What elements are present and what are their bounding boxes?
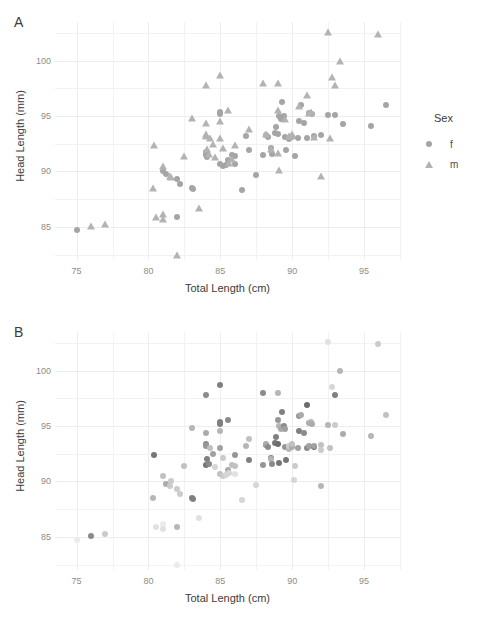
y-tick-label: 90 xyxy=(41,166,51,176)
data-point xyxy=(188,115,196,122)
data-point xyxy=(174,562,180,568)
panel-b-x-axis-title: Total Length (cm) xyxy=(55,592,400,604)
panel-a: A 859095100 7580859095 Total Length (cm)… xyxy=(0,0,503,310)
data-point xyxy=(281,116,289,123)
legend-row-m[interactable]: m xyxy=(418,154,500,174)
data-point xyxy=(318,483,324,489)
data-point xyxy=(318,132,324,138)
data-point xyxy=(295,103,303,110)
x-tick-label: 80 xyxy=(143,266,153,276)
x-tick-label: 90 xyxy=(287,576,297,586)
data-point xyxy=(262,130,270,137)
data-point xyxy=(328,74,336,81)
data-point xyxy=(232,463,238,469)
data-point xyxy=(173,251,181,258)
panel-a-plot-area xyxy=(55,22,400,260)
data-point xyxy=(309,421,315,427)
data-point xyxy=(340,121,346,127)
data-point xyxy=(217,428,223,434)
figure-container: A 859095100 7580859095 Total Length (cm)… xyxy=(0,0,503,620)
data-point xyxy=(337,368,343,374)
data-point xyxy=(243,443,249,449)
data-point xyxy=(260,152,266,158)
data-point xyxy=(216,135,224,142)
data-point xyxy=(149,185,157,192)
data-point xyxy=(150,141,158,148)
data-point xyxy=(260,390,266,396)
data-point xyxy=(243,133,249,139)
panel-b: B 859095100 7580859095 Total Length (cm)… xyxy=(0,310,503,620)
panel-b-y-axis-title: Head Length (mm) xyxy=(14,327,26,565)
data-point xyxy=(211,154,219,161)
data-point xyxy=(160,526,166,532)
data-point xyxy=(74,537,80,543)
x-tick-label: 85 xyxy=(215,266,225,276)
data-point xyxy=(180,152,188,159)
panel-a-x-axis-title: Total Length (cm) xyxy=(55,282,400,294)
data-point xyxy=(217,382,223,388)
data-point xyxy=(87,222,95,229)
data-point xyxy=(326,135,334,142)
data-point xyxy=(224,106,232,113)
legend-label-m: m xyxy=(440,159,458,170)
y-tick-label: 85 xyxy=(41,222,51,232)
data-point xyxy=(160,473,166,479)
data-point xyxy=(253,172,259,178)
data-point xyxy=(177,491,183,497)
panel-b-x-axis-ticks: 7580859095 xyxy=(55,576,400,588)
data-point xyxy=(303,92,311,99)
data-point xyxy=(232,471,238,477)
data-point xyxy=(368,433,374,439)
panel-a-legend: Sex f m xyxy=(418,112,500,174)
data-point xyxy=(311,443,317,449)
y-tick-label: 85 xyxy=(41,532,51,542)
data-point xyxy=(318,447,324,453)
data-point xyxy=(217,111,223,117)
data-point xyxy=(212,464,218,470)
data-point xyxy=(275,390,281,396)
data-point xyxy=(216,72,224,79)
y-tick-label: 90 xyxy=(41,476,51,486)
circle-marker-icon xyxy=(418,141,440,147)
data-point xyxy=(283,147,289,153)
data-point xyxy=(375,341,381,347)
data-point xyxy=(203,430,209,436)
data-point xyxy=(291,477,297,483)
data-point xyxy=(245,126,253,133)
data-point xyxy=(332,112,338,118)
data-point xyxy=(177,181,183,187)
x-tick-label: 75 xyxy=(72,266,82,276)
data-point xyxy=(159,216,167,223)
data-point xyxy=(327,445,333,451)
data-point xyxy=(336,57,344,64)
data-point xyxy=(279,99,285,105)
panel-a-points-layer xyxy=(55,22,400,260)
data-point xyxy=(265,444,271,450)
data-point xyxy=(292,153,298,159)
legend-row-f[interactable]: f xyxy=(418,134,500,154)
data-point xyxy=(190,186,196,192)
data-point xyxy=(74,227,80,233)
data-point xyxy=(279,409,285,415)
data-point xyxy=(273,434,279,440)
data-point xyxy=(301,430,307,436)
y-tick-label: 100 xyxy=(36,56,51,66)
y-tick-label: 100 xyxy=(36,366,51,376)
data-point xyxy=(151,452,157,458)
data-point xyxy=(203,392,209,398)
panel-b-points-layer xyxy=(55,332,400,570)
gridline-vertical xyxy=(400,22,401,260)
data-point xyxy=(275,167,283,174)
data-point xyxy=(102,531,108,537)
x-tick-label: 80 xyxy=(143,576,153,586)
panel-a-y-axis-title: Head Length (mm) xyxy=(14,17,26,255)
data-point xyxy=(273,124,279,130)
panel-b-plot-area xyxy=(55,332,400,570)
x-tick-label: 95 xyxy=(359,266,369,276)
data-point xyxy=(301,120,307,126)
data-point xyxy=(210,451,216,457)
data-point xyxy=(298,412,304,418)
data-point xyxy=(274,149,282,156)
data-point xyxy=(282,426,288,432)
data-point xyxy=(292,463,298,469)
